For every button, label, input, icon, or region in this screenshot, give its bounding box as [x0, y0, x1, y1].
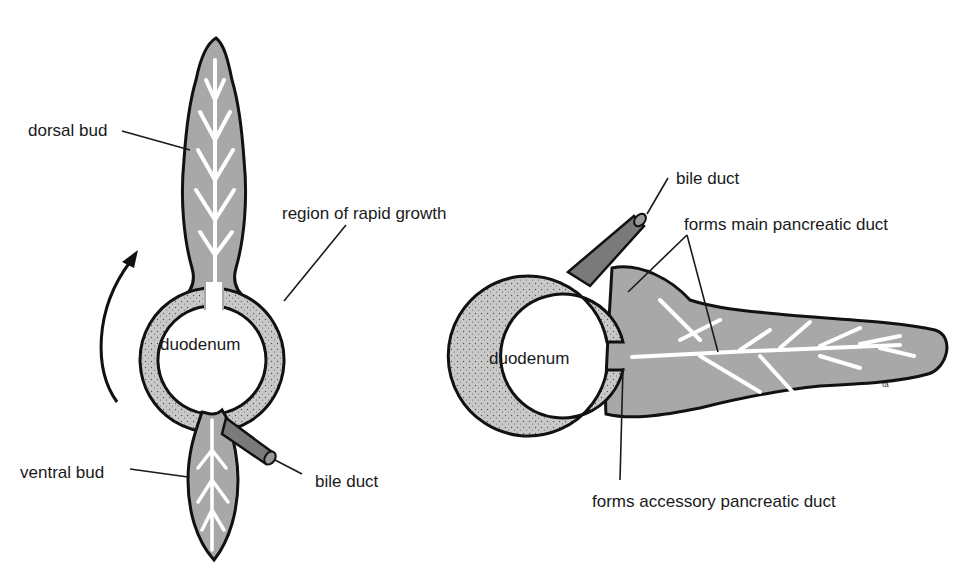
label-ventral-bud: ventral bud	[20, 463, 104, 482]
left-panel: dorsal bud region of rapid growth duoden…	[20, 38, 446, 560]
pancreas-shape	[605, 267, 946, 417]
label-bile-duct-right: bile duct	[676, 169, 740, 188]
label-bile-duct-left: bile duct	[315, 472, 379, 491]
label-region-rapid-growth: region of rapid growth	[282, 204, 446, 223]
label-duodenum-right: duodenum	[489, 349, 569, 368]
label-main-pancreatic-duct: forms main pancreatic duct	[684, 215, 888, 234]
label-accessory-pancreatic-duct: forms accessory pancreatic duct	[592, 492, 836, 511]
label-dorsal-bud: dorsal bud	[28, 121, 107, 140]
artist-mark: ta	[882, 380, 889, 389]
right-panel: ta bile duct forms main pancreatic duct …	[448, 169, 947, 511]
rotation-arrow-icon	[101, 262, 130, 402]
pancreas-development-diagram: dorsal bud region of rapid growth duoden…	[0, 0, 970, 582]
label-duodenum-left: duodenum	[160, 335, 240, 354]
